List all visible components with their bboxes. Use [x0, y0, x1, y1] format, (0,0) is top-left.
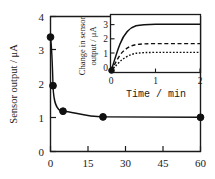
inset-x-ticklabel-1: 1 — [153, 76, 158, 86]
main-y-axis-title: Sensor output / μA — [8, 44, 19, 124]
main-x-ticks: 0 15 30 45 60 — [48, 146, 207, 169]
sensor-output-chart: 0 1 2 3 4 0 15 30 45 60 Sensor output / … — [0, 0, 215, 179]
inset-x-axis-title: Time / min — [126, 89, 186, 100]
main-datapoint-3 — [100, 114, 107, 121]
inset-y-ticklabel-3: 3 — [103, 20, 108, 30]
inset-y-axis-title-line1: Change in sensor — [77, 17, 87, 76]
inset-plot: 0 1 2 3 0 1 2 Time / min Change in senso… — [77, 15, 203, 101]
inset-y-ticklabel-1: 1 — [103, 49, 108, 59]
main-x-ticklabel-30: 30 — [120, 157, 132, 169]
main-datapoint-1 — [50, 82, 57, 89]
main-y-ticklabel-2: 2 — [39, 78, 45, 90]
main-datapoint-0 — [47, 34, 54, 41]
inset-origin-marker — [109, 68, 115, 74]
main-y-ticklabel-1: 1 — [39, 112, 45, 124]
inset-y-axis-title-line2: output / μA — [88, 26, 98, 66]
main-x-ticklabel-0: 0 — [48, 157, 54, 169]
main-x-ticklabel-45: 45 — [158, 157, 170, 169]
main-x-ticklabel-15: 15 — [83, 157, 95, 169]
inset-x-ticklabel-0: 0 — [109, 76, 114, 86]
main-y-ticklabel-3: 3 — [39, 44, 45, 56]
main-datapoint-2 — [60, 108, 67, 115]
main-y-ticklabel-4: 4 — [39, 11, 45, 23]
inset-y-ticklabel-0: 0 — [103, 63, 108, 73]
figure-container: 0 1 2 3 4 0 15 30 45 60 Sensor output / … — [0, 0, 215, 179]
main-datapoint-4 — [197, 114, 204, 121]
inset-x-ticklabel-2: 2 — [198, 76, 203, 86]
inset-y-ticklabel-2: 2 — [103, 34, 108, 44]
main-y-ticklabel-0: 0 — [39, 146, 45, 158]
main-x-ticklabel-60: 60 — [195, 157, 207, 169]
